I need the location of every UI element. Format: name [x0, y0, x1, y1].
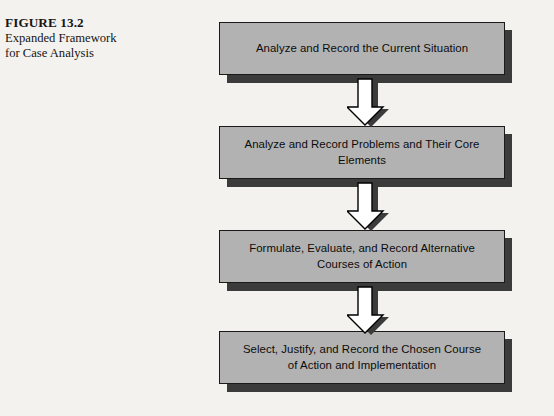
flow-box-step-3: Formulate, Evaluate, and Record Alternat…	[219, 230, 505, 283]
flow-box-step-4: Select, Justify, and Record the Chosen C…	[219, 331, 505, 384]
arrow-step-1-to-2	[347, 75, 391, 128]
figure-caption: FIGURE 13.2 Expanded Framework for Case …	[5, 15, 175, 61]
figure-caption-line-2: for Case Analysis	[5, 46, 175, 61]
flow-box-step-1: Analyze and Record the Current Situation	[219, 22, 505, 75]
arrow-step-3-to-4	[347, 283, 391, 336]
flow-box-step-2: Analyze and Record Problems and Their Co…	[219, 126, 505, 179]
figure-caption-title: FIGURE 13.2	[5, 15, 175, 31]
flow-box-label-1: Analyze and Record the Current Situation	[250, 41, 474, 56]
flow-box-label-3: Formulate, Evaluate, and Record Alternat…	[243, 241, 481, 271]
figure-container: FIGURE 13.2 Expanded Framework for Case …	[0, 0, 554, 416]
flow-box-label-4: Select, Justify, and Record the Chosen C…	[237, 342, 487, 372]
figure-caption-line-1: Expanded Framework	[5, 31, 175, 46]
flow-box-label-2: Analyze and Record Problems and Their Co…	[220, 137, 504, 167]
arrow-step-2-to-3	[347, 179, 391, 232]
